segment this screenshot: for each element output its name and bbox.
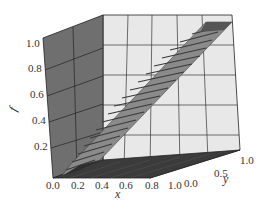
svg-text:0.4: 0.4 <box>32 114 46 126</box>
svg-text:0.6: 0.6 <box>30 88 44 100</box>
svg-text:0.2: 0.2 <box>34 140 48 152</box>
y-axis-label: y <box>222 172 229 186</box>
svg-text:0.6: 0.6 <box>119 179 133 191</box>
svg-text:0.8: 0.8 <box>145 179 159 191</box>
svg-text:1.0: 1.0 <box>240 154 254 166</box>
svg-text:0.2: 0.2 <box>71 179 85 191</box>
svg-text:0.4: 0.4 <box>95 179 109 191</box>
svg-text:0.0: 0.0 <box>46 179 60 191</box>
surface-plot: 1.0 0.8 0.6 0.4 0.2 f 0.0 0.2 0.4 0.6 0.… <box>0 0 264 209</box>
svg-text:1.0: 1.0 <box>26 37 40 49</box>
svg-text:0.0: 0.0 <box>184 177 198 189</box>
x-axis-label: x <box>114 187 121 201</box>
z-axis-label: f <box>6 104 21 113</box>
svg-text:1.0: 1.0 <box>168 179 182 191</box>
svg-text:0.8: 0.8 <box>28 62 42 74</box>
